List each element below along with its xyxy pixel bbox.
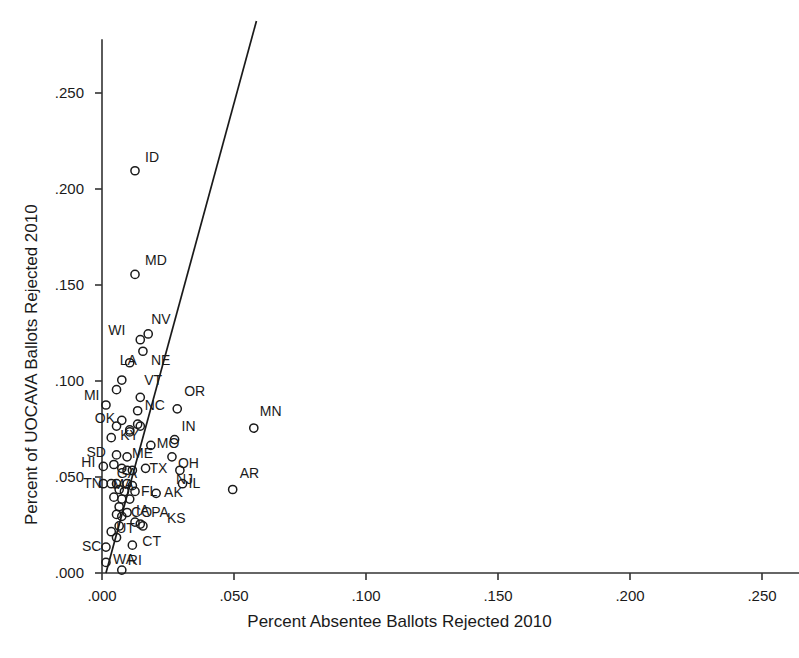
point-label-IN: IN xyxy=(182,419,196,433)
y-tick-label-5: .250 xyxy=(24,84,84,101)
scatter-plot-figure: Percent Absentee Ballots Rejected 2010 P… xyxy=(0,0,799,658)
point-label-CT: CT xyxy=(142,534,161,548)
point-label-AK: AK xyxy=(164,485,183,499)
point-label-KY: KY xyxy=(120,428,139,442)
point-label-MD: MD xyxy=(145,253,167,267)
data-point-DE xyxy=(112,510,120,518)
data-point-KY xyxy=(107,434,115,442)
data-point-ID xyxy=(131,167,139,175)
x-tick-label-2: .100 xyxy=(331,587,401,604)
data-point-OR xyxy=(173,405,181,413)
y-tick-label-4: .200 xyxy=(24,180,84,197)
data-point-AR xyxy=(229,485,237,493)
data-point-MD xyxy=(131,270,139,278)
y-tick-label-2: .100 xyxy=(24,372,84,389)
data-point-VT xyxy=(136,393,144,401)
y-tick-label-1: .050 xyxy=(24,468,84,485)
point-label-IL: IL xyxy=(189,476,201,490)
point-label-VT: VT xyxy=(144,373,162,387)
point-label-MI: MI xyxy=(84,388,100,402)
point-label-SC: SC xyxy=(82,539,101,553)
data-point-HI xyxy=(99,462,107,470)
data-point-NV xyxy=(144,330,152,338)
point-label-FL: FL xyxy=(141,484,157,498)
data-point-LA xyxy=(118,376,126,384)
point-label-MA: MA xyxy=(113,477,134,491)
point-label-WI: WI xyxy=(108,323,125,337)
point-label-RI: RI xyxy=(128,553,142,567)
point-label-ME: ME xyxy=(132,446,153,460)
point-label-ID: ID xyxy=(145,150,159,164)
point-label-OK: OK xyxy=(95,411,115,425)
point-label-OR: OR xyxy=(184,384,205,398)
x-tick-label-0: .000 xyxy=(67,587,137,604)
data-point-CT xyxy=(128,541,136,549)
data-point-MI xyxy=(102,401,110,409)
point-label-KS: KS xyxy=(167,511,186,525)
point-label-TN: TN xyxy=(83,476,102,490)
data-point-WI xyxy=(136,336,144,344)
data-point-KS xyxy=(139,522,147,530)
data-point-MN xyxy=(250,424,258,432)
point-label-LA: LA xyxy=(120,353,137,367)
data-point-DD xyxy=(112,386,120,394)
data-point-SD xyxy=(112,451,120,459)
point-label-MN: MN xyxy=(260,404,282,418)
point-label-NV: NV xyxy=(151,312,170,326)
data-point-TX xyxy=(141,464,149,472)
data-point-NE xyxy=(139,347,147,355)
point-label-NC: NC xyxy=(145,398,165,412)
data-point-NC xyxy=(134,407,142,415)
point-label-OH: OH xyxy=(178,456,199,470)
point-label-MO: MO xyxy=(157,436,180,450)
point-label-TX: TX xyxy=(150,461,168,475)
data-point-SC xyxy=(102,543,110,551)
y-tick-label-3: .150 xyxy=(24,276,84,293)
x-axis-title: Percent Absentee Ballots Rejected 2010 xyxy=(0,612,799,632)
data-point-AL xyxy=(110,493,118,501)
point-label-UT: UT xyxy=(116,521,135,535)
point-label-IA: IA xyxy=(136,503,149,517)
x-tick-label-3: .150 xyxy=(463,587,533,604)
x-tick-label-1: .050 xyxy=(199,587,269,604)
data-point-ME xyxy=(123,453,131,461)
point-label-HI: HI xyxy=(81,455,95,469)
point-label-AR: AR xyxy=(240,466,259,480)
y-tick-label-0: .000 xyxy=(24,564,84,581)
x-tick-label-4: .200 xyxy=(595,587,665,604)
point-label-NE: NE xyxy=(151,353,170,367)
data-point-OH xyxy=(168,453,176,461)
x-tick-label-5: .250 xyxy=(727,587,797,604)
